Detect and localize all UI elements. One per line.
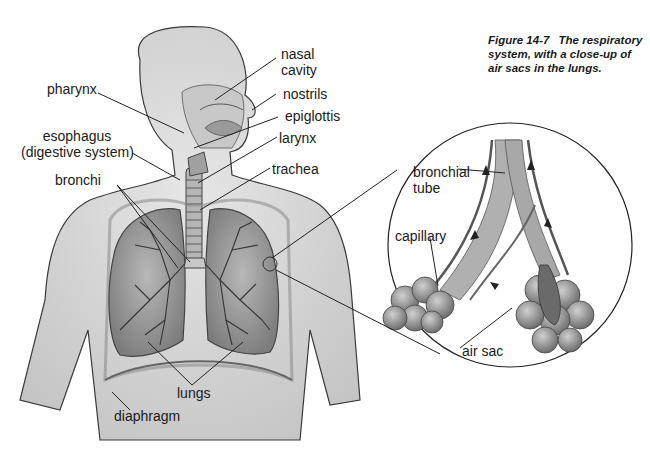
label-epiglottis: epiglottis xyxy=(285,108,340,124)
label-trachea: trachea xyxy=(272,161,319,177)
label-esophagus-line1: esophagus xyxy=(21,128,133,144)
label-bronchial-tube-line2: tube xyxy=(413,180,440,196)
label-nostrils: nostrils xyxy=(283,86,327,102)
figure-caption: Figure 14-7 The respiratory system, with… xyxy=(488,33,648,75)
label-air-sac: air sac xyxy=(462,343,503,359)
air-sac-closeup xyxy=(383,123,632,367)
label-diaphragm: diaphragm xyxy=(114,408,180,424)
label-bronchial-tube-line1: bronchial xyxy=(413,164,470,180)
label-larynx: larynx xyxy=(279,130,316,146)
label-lungs: lungs xyxy=(177,385,210,401)
label-bronchi: bronchi xyxy=(55,172,101,188)
figure-number: Figure 14-7 xyxy=(488,34,549,46)
label-esophagus-line2: (digestive system) xyxy=(21,144,133,160)
label-capillary: capillary xyxy=(395,228,446,244)
label-pharynx: pharynx xyxy=(47,81,97,97)
label-nasal-cavity-line1: nasal xyxy=(281,46,314,62)
label-nasal-cavity-line2: cavity xyxy=(281,62,317,78)
